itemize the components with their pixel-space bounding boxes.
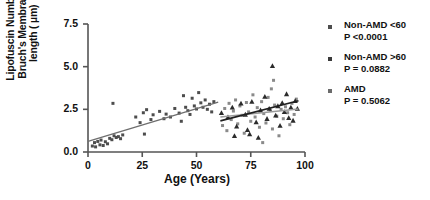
data-point-square	[188, 113, 191, 116]
data-point-square	[245, 101, 248, 104]
data-point-square	[143, 133, 146, 136]
legend-label-2: Non-AMD >60	[344, 51, 406, 63]
data-point-square	[134, 116, 137, 119]
legend-label-1: Non-AMD <60	[344, 19, 406, 31]
data-point-square	[288, 123, 291, 126]
data-point-square	[282, 117, 285, 120]
data-point-square	[204, 98, 207, 101]
data-point-square	[158, 110, 161, 113]
data-point-square	[261, 141, 264, 144]
legend-pvalue-2: P = 0.0882	[344, 63, 406, 75]
data-point-square	[119, 137, 122, 140]
data-point-square	[284, 105, 287, 108]
data-point-triangle	[270, 63, 275, 68]
data-point-square	[243, 132, 246, 135]
x-axis-tick-label: 25	[127, 159, 157, 171]
data-point-square	[173, 107, 176, 110]
legend: Non-AMD <60 P <0.0001 Non-AMD >60 P = 0.…	[328, 22, 428, 118]
data-point-triangle	[295, 106, 300, 111]
data-point-square	[272, 79, 275, 82]
data-point-square	[98, 143, 101, 146]
data-point-square	[184, 106, 187, 109]
scatter-plot-figure: Lipofuscin Number/ Bruch's Membrane leng…	[0, 0, 430, 200]
data-point-square	[180, 120, 183, 123]
data-point-square	[264, 121, 267, 124]
y-axis-tick-label: 7.5	[44, 17, 78, 29]
data-point-triangle	[219, 110, 224, 115]
data-point-square	[232, 110, 235, 113]
data-point-triangle	[277, 123, 282, 128]
data-point-square	[182, 94, 185, 97]
legend-marker-square-icon	[328, 57, 332, 61]
data-point-square	[191, 97, 194, 100]
legend-entry-amd: AMD P = 0.5062	[328, 86, 428, 111]
data-point-triangle	[247, 131, 252, 136]
data-point-triangle	[249, 99, 254, 104]
legend-pvalue-1: P <0.0001	[344, 31, 406, 43]
data-point-triangle	[230, 105, 235, 110]
data-point-square	[111, 102, 114, 105]
data-point-square	[139, 121, 142, 124]
y-axis-tick-label: 5.0	[44, 60, 78, 72]
data-point-square	[228, 102, 231, 105]
series-1	[91, 91, 216, 148]
legend-entry-non-amd-under-60: Non-AMD <60 P <0.0001	[328, 22, 428, 47]
data-point-square	[225, 129, 228, 132]
data-point-triangle	[284, 91, 289, 96]
legend-label-3: AMD	[344, 83, 390, 95]
data-point-square	[249, 120, 252, 123]
data-point-square	[277, 134, 280, 137]
legend-marker-square-icon	[328, 25, 332, 29]
data-point-triangle	[264, 116, 269, 121]
data-point-square	[197, 91, 200, 94]
x-axis-title: Age (Years)	[88, 172, 306, 186]
data-point-triangle	[256, 135, 261, 140]
data-point-square	[251, 93, 254, 96]
data-point-square	[193, 104, 196, 107]
y-axis-tick-label: 0.0	[44, 145, 78, 157]
data-point-triangle	[288, 105, 293, 110]
data-point-square	[271, 127, 274, 130]
data-point-triangle	[245, 127, 250, 132]
x-axis-tick-label: 100	[290, 159, 320, 171]
data-point-square	[165, 113, 168, 116]
legend-pvalue-3: P = 0.5062	[344, 95, 390, 107]
data-point-square	[142, 111, 145, 114]
data-point-triangle	[286, 115, 291, 120]
x-axis-tick-label: 50	[182, 159, 212, 171]
data-point-square	[152, 113, 155, 116]
data-point-square	[258, 126, 261, 129]
data-point-square	[96, 140, 99, 143]
regression-line-1	[88, 102, 218, 141]
data-point-square	[100, 139, 103, 142]
data-point-square	[106, 142, 109, 145]
data-point-square	[270, 87, 273, 90]
x-axis-tick-label: 0	[73, 159, 103, 171]
data-point-square	[93, 141, 96, 144]
data-point-square	[145, 108, 148, 111]
data-point-square	[256, 106, 259, 109]
data-point-square	[221, 124, 224, 127]
data-point-triangle	[238, 101, 243, 106]
data-point-square	[234, 98, 237, 101]
data-point-square	[293, 113, 296, 116]
data-point-square	[210, 110, 213, 113]
data-point-square	[260, 100, 263, 103]
data-point-square	[94, 145, 97, 148]
data-point-square	[110, 138, 113, 141]
legend-entry-non-amd-over-60: Non-AMD >60 P = 0.0882	[328, 54, 428, 79]
data-point-square	[102, 144, 105, 147]
x-axis-tick-label: 75	[236, 159, 266, 171]
data-point-square	[223, 107, 226, 110]
data-point-triangle	[232, 133, 237, 138]
data-point-square	[206, 108, 209, 111]
data-point-square	[149, 118, 152, 121]
legend-marker-triangle-icon	[328, 89, 332, 93]
data-point-triangle	[290, 118, 295, 123]
data-point-square	[199, 101, 202, 104]
data-point-square	[91, 145, 94, 148]
y-axis-tick-label: 2.5	[44, 102, 78, 114]
data-point-square	[254, 116, 257, 119]
data-point-square	[121, 133, 124, 136]
data-point-triangle	[254, 120, 259, 125]
